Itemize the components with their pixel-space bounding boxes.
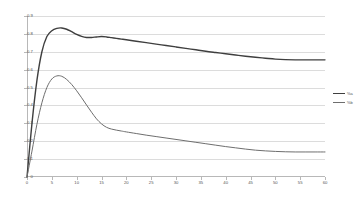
series-line bbox=[27, 76, 325, 177]
legend-swatch bbox=[333, 102, 345, 103]
x-tick-label: 15 bbox=[99, 181, 104, 185]
x-tick-label: 5 bbox=[51, 181, 53, 185]
x-tick-mark bbox=[151, 177, 152, 180]
x-tick-label: 30 bbox=[174, 181, 179, 185]
x-tick-mark bbox=[77, 177, 78, 180]
legend: %a%b bbox=[333, 91, 353, 105]
x-tick-mark bbox=[102, 177, 103, 180]
x-tick-mark bbox=[275, 177, 276, 180]
x-tick-mark bbox=[176, 177, 177, 180]
x-tick-label: 45 bbox=[248, 181, 253, 185]
x-tick-label: 35 bbox=[198, 181, 203, 185]
x-tick-mark bbox=[251, 177, 252, 180]
x-tick-mark bbox=[126, 177, 127, 180]
x-tick-mark bbox=[300, 177, 301, 180]
legend-swatch bbox=[333, 93, 345, 94]
x-tick-label: 55 bbox=[298, 181, 303, 185]
line-chart: 00.10.20.30.40.50.60.70.80.9 05101520253… bbox=[0, 0, 364, 197]
x-tick-mark bbox=[226, 177, 227, 180]
x-tick-label: 25 bbox=[149, 181, 154, 185]
series-lines bbox=[27, 16, 325, 177]
legend-item[interactable]: %b bbox=[333, 100, 353, 105]
x-tick-label: 20 bbox=[124, 181, 129, 185]
series-line bbox=[27, 28, 325, 177]
x-tick-mark bbox=[52, 177, 53, 180]
x-tick-mark bbox=[201, 177, 202, 180]
x-tick-label: 60 bbox=[323, 181, 328, 185]
x-tick-label: 40 bbox=[223, 181, 228, 185]
legend-label: %b bbox=[347, 101, 353, 105]
x-tick-mark bbox=[325, 177, 326, 180]
x-tick-label: 10 bbox=[74, 181, 79, 185]
legend-item[interactable]: %a bbox=[333, 91, 353, 96]
x-tick-label: 50 bbox=[273, 181, 278, 185]
x-tick-label: 0 bbox=[26, 181, 28, 185]
legend-label: %a bbox=[347, 92, 353, 96]
